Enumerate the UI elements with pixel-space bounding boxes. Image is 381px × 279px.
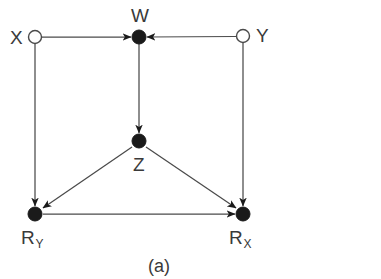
node-label-x: X <box>10 28 23 47</box>
figure-container: X W Y Z RY RX (a) <box>0 0 381 279</box>
node-label-w: W <box>131 6 149 25</box>
node-x <box>29 31 42 44</box>
node-label-ry: RY <box>21 228 43 247</box>
edge-y-to-w <box>147 37 236 38</box>
node-y <box>237 30 250 43</box>
node-label-ry-text: R <box>21 227 35 248</box>
node-label-rx-text: R <box>229 227 243 248</box>
node-w <box>132 30 146 44</box>
node-rx <box>236 207 250 221</box>
node-ry <box>28 207 42 221</box>
figure-caption: (a) <box>148 257 170 275</box>
node-label-ry-subscript: Y <box>35 237 43 251</box>
node-label-z-text: Z <box>133 154 145 175</box>
edges-layer <box>35 37 243 215</box>
node-label-w-text: W <box>131 5 149 26</box>
node-label-y: Y <box>256 26 269 45</box>
node-label-z: Z <box>133 155 145 174</box>
causal-graph-diagram <box>0 0 381 279</box>
edge-z-to-rx <box>146 147 236 208</box>
node-z <box>132 134 146 148</box>
node-label-x-text: X <box>10 27 23 48</box>
edge-z-to-ry <box>43 147 132 208</box>
node-label-rx: RX <box>229 228 251 247</box>
node-label-rx-subscript: X <box>243 237 251 251</box>
node-label-y-text: Y <box>256 25 269 46</box>
